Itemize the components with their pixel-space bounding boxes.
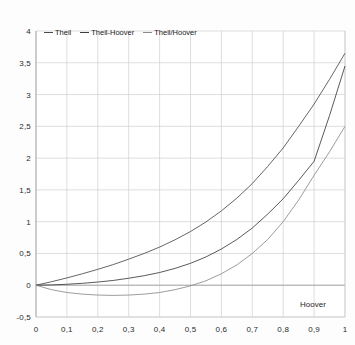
x-tick-label: 0,3 [123, 325, 135, 334]
x-tick-label: 0,8 [277, 325, 289, 334]
x-tick-label: 0,9 [308, 325, 320, 334]
x-tick-label: 0 [34, 325, 39, 334]
y-tick-label: 2,5 [0, 122, 31, 131]
legend-item-label: Theil [55, 28, 71, 37]
legend-item-label: Theil-Hoover [91, 28, 134, 37]
chart-canvas [0, 0, 355, 345]
x-tick-label: 0,1 [61, 325, 73, 334]
x-tick-label: 0,2 [92, 325, 104, 334]
x-tick-label: 0,7 [246, 325, 258, 334]
y-tick-label: 2 [0, 154, 31, 163]
chart-legend: TheilTheil-HooverTheil/Hoover [44, 28, 197, 37]
legend-item-0: Theil [44, 28, 71, 37]
y-tick-label: 0 [0, 281, 31, 290]
legend-swatch-icon [80, 32, 89, 33]
y-tick-label: 1 [0, 217, 31, 226]
x-axis-title: Hoover [300, 300, 326, 309]
x-tick-label: 0,4 [154, 325, 166, 334]
y-tick-label: 3,5 [0, 58, 31, 67]
x-tick-label: 0,5 [185, 325, 197, 334]
legend-swatch-icon [143, 32, 152, 33]
chart-figure: 43,532,521,510,50-0,5 00,10,20,30,40,50,… [0, 0, 355, 345]
y-tick-label: 0,5 [0, 249, 31, 258]
x-tick-label: 0,6 [216, 325, 228, 334]
x-tick-label: 1 [343, 325, 348, 334]
y-tick-label: 4 [0, 27, 31, 36]
y-tick-label: -0,5 [0, 313, 31, 322]
legend-item-2: Theil/Hoover [143, 28, 197, 37]
legend-item-label: Theil/Hoover [154, 28, 197, 37]
y-tick-label: 1,5 [0, 185, 31, 194]
y-tick-label: 3 [0, 90, 31, 99]
legend-swatch-icon [44, 32, 53, 33]
legend-item-1: Theil-Hoover [80, 28, 134, 37]
